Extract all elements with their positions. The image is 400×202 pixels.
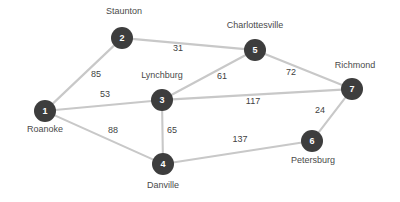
graph-node-label-2: Staunton: [106, 6, 142, 17]
graph-diagram: 1Roanoke2Staunton3Lynchburg4Danville5Cha…: [0, 0, 400, 202]
graph-edge: [173, 143, 302, 163]
edge-weight-label: 85: [91, 69, 101, 79]
graph-node-2[interactable]: 2: [111, 27, 133, 49]
edge-weight-label: 137: [232, 134, 247, 144]
graph-node-1[interactable]: 1: [34, 100, 56, 122]
edge-weight-label: 117: [246, 96, 260, 106]
graph-edge: [132, 39, 245, 49]
edge-weight-label: 53: [100, 89, 110, 99]
graph-edge: [54, 115, 154, 160]
graph-node-label-3: Lynchburg: [141, 70, 183, 81]
graph-node-7[interactable]: 7: [341, 78, 363, 100]
graph-node-5[interactable]: 5: [244, 39, 266, 61]
graph-node-label-7: Richmond: [335, 60, 376, 71]
edge-weight-label: 88: [108, 125, 118, 135]
graph-node-label-6: Petersburg: [291, 155, 335, 166]
edge-weight-label: 24: [315, 105, 325, 115]
graph-edge: [318, 97, 346, 133]
graph-edges-layer: [0, 0, 400, 202]
graph-node-label-1: Roanoke: [27, 124, 63, 135]
graph-node-label-5: Charlottesville: [227, 20, 284, 31]
graph-edge: [162, 110, 163, 154]
graph-node-3[interactable]: 3: [151, 89, 173, 111]
graph-node-6[interactable]: 6: [301, 130, 323, 152]
graph-edge: [264, 54, 342, 86]
edge-weight-label: 65: [167, 125, 177, 135]
edge-weight-label: 31: [173, 43, 183, 53]
edge-weight-label: 72: [286, 67, 296, 77]
graph-edge: [55, 101, 152, 110]
graph-node-4[interactable]: 4: [152, 153, 174, 175]
graph-node-label-4: Danville: [147, 180, 179, 191]
edge-weight-label: 61: [217, 71, 227, 81]
